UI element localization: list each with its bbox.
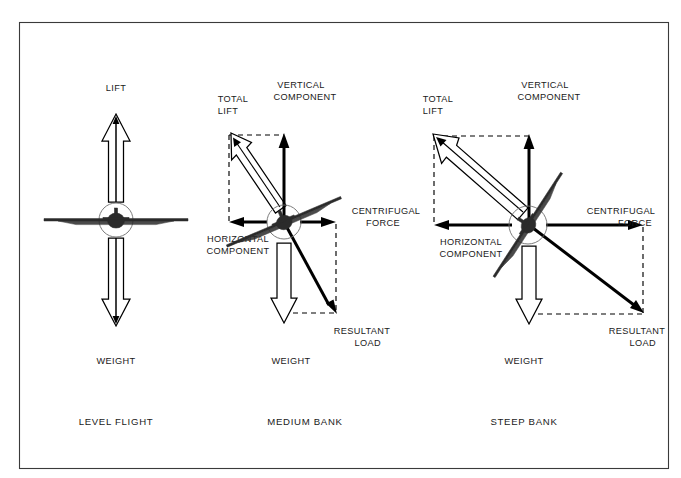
caption-medium-bank: MEDIUM BANK (267, 416, 342, 427)
label-horizontal-component-steep-line2: COMPONENT (440, 249, 503, 259)
panel-level-flight: LIFT WEIGHT LEV (44, 83, 188, 427)
label-horizontal-component-medium-line2: COMPONENT (207, 246, 270, 256)
panel-steep-bank: TOTAL LIFT VERTICAL COMPONENT HORIZONTAL… (423, 80, 665, 427)
label-vertical-component-steep-line2: COMPONENT (518, 92, 581, 102)
medium-weight-arrow (271, 243, 297, 323)
panel-medium-bank: TOTAL LIFT VERTICAL COMPONENT HORIZONTAL… (207, 80, 421, 427)
label-resultant-load-medium-line1: RESULTANT (334, 326, 390, 336)
label-resultant-load-medium-line2: LOAD (355, 338, 381, 348)
label-resultant-load-steep-line1: RESULTANT (609, 326, 665, 336)
steep-horizontal-component-head (434, 220, 449, 230)
label-weight-level: WEIGHT (97, 356, 136, 366)
label-total-lift-medium-line2: LIFT (218, 106, 238, 116)
label-centrifugal-force-medium-line1: CENTRIFUGAL (352, 206, 421, 216)
label-total-lift-medium-line1: TOTAL (218, 94, 249, 104)
label-horizontal-component-steep-line1: HORIZONTAL (440, 237, 502, 247)
steep-total-lift-arrow (433, 134, 528, 220)
steep-weight-arrow (516, 246, 542, 324)
medium-horizontal-component-head (229, 217, 244, 227)
figure-page: LIFT WEIGHT LEV (0, 0, 681, 478)
caption-level-flight: LEVEL FLIGHT (79, 416, 154, 427)
label-weight-medium: WEIGHT (272, 356, 311, 366)
label-lift: LIFT (106, 83, 126, 93)
caption-steep-bank: STEEP BANK (490, 416, 557, 427)
label-vertical-component-medium-line1: VERTICAL (277, 80, 325, 90)
label-vertical-component-medium-line2: COMPONENT (274, 92, 337, 102)
label-resultant-load-steep-line2: LOAD (630, 338, 656, 348)
label-weight-steep: WEIGHT (505, 356, 544, 366)
steep-resultant-load-shaft (529, 225, 634, 305)
aircraft-symbol-level (44, 203, 188, 237)
medium-centrifugal-force-head (321, 217, 336, 227)
label-centrifugal-force-medium-line2: FORCE (366, 218, 400, 228)
label-centrifugal-force-steep-line1: CENTRIFUGAL (587, 206, 656, 216)
medium-total-lift-arrow (231, 133, 286, 213)
medium-vertical-component-head (279, 133, 290, 148)
label-centrifugal-force-steep-line2: FORCE (618, 218, 652, 228)
label-total-lift-steep-line2: LIFT (423, 106, 443, 116)
force-vector-diagram: LIFT WEIGHT LEV (0, 0, 681, 478)
label-vertical-component-steep-line1: VERTICAL (521, 80, 569, 90)
label-total-lift-steep-line1: TOTAL (423, 94, 454, 104)
